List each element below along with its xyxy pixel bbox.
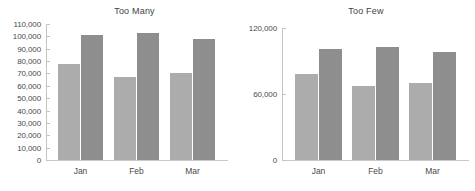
bar-mar-series-2: [433, 52, 456, 160]
bar-feb-series-2: [376, 47, 399, 160]
bar-jan-series-2: [81, 35, 103, 160]
x-axis-label-mar: Mar: [185, 166, 200, 176]
x-axis-label-feb: Feb: [368, 166, 383, 176]
bars-too-many: JanFebMar: [0, 0, 237, 191]
bar-jan-series-1: [58, 64, 80, 160]
bar-jan-series-2: [319, 49, 342, 160]
bar-jan-series-1: [295, 74, 318, 160]
bar-feb-series-1: [352, 86, 375, 160]
chart-too-many: Too Many 010,00020,00030,00040,00050,000…: [0, 0, 237, 191]
plot-area-too-many: 010,00020,00030,00040,00050,00060,00070,…: [0, 0, 237, 191]
bar-feb-series-1: [114, 77, 136, 160]
bar-mar-series-2: [193, 39, 215, 160]
bars-too-few: JanFebMar: [237, 0, 475, 191]
x-axis-label-jan: Jan: [312, 166, 326, 176]
bar-mar-series-1: [409, 83, 432, 160]
two-bar-charts-figure: Too Many 010,00020,00030,00040,00050,000…: [0, 0, 475, 191]
x-axis-label-jan: Jan: [74, 166, 88, 176]
x-axis-label-feb: Feb: [129, 166, 144, 176]
chart-too-few: Too Few 060,000120,000 JanFebMar: [237, 0, 475, 191]
plot-area-too-few: 060,000120,000 JanFebMar: [237, 0, 475, 191]
bar-feb-series-2: [137, 33, 159, 160]
x-axis-label-mar: Mar: [425, 166, 440, 176]
bar-mar-series-1: [170, 73, 192, 160]
